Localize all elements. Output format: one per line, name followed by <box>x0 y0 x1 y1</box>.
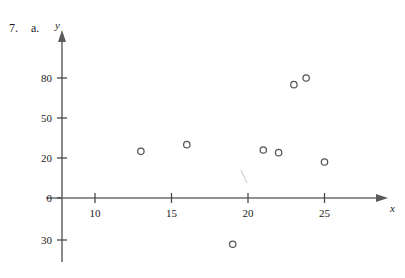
data-point <box>184 141 190 147</box>
data-point <box>291 81 297 87</box>
y-tick-label: 20 <box>26 153 52 164</box>
x-tick-label: 10 <box>82 208 108 219</box>
data-point <box>303 75 309 81</box>
y-tick-label: 30 <box>26 235 52 246</box>
data-point <box>138 148 144 154</box>
x-axis-arrowhead <box>376 194 388 202</box>
x-axis-group <box>46 194 388 202</box>
x-tick-label: 20 <box>235 208 261 219</box>
scan-artifact-mark <box>241 170 247 183</box>
y-tick-label: 80 <box>26 73 52 84</box>
scatter-plot-figure: 7. a. y x 10152025805020030 <box>0 0 405 278</box>
x-tick-label: 25 <box>312 208 338 219</box>
data-point <box>230 241 236 247</box>
y-tick-label: 0 <box>26 193 52 204</box>
data-point <box>260 147 266 153</box>
plot-canvas <box>0 0 405 278</box>
data-point <box>321 159 327 165</box>
y-tick-label: 50 <box>26 113 52 124</box>
data-points-group <box>138 75 328 248</box>
data-point <box>275 149 281 155</box>
x-tick-label: 15 <box>159 208 185 219</box>
y-axis-group <box>58 30 66 262</box>
y-axis-arrowhead <box>58 30 66 42</box>
